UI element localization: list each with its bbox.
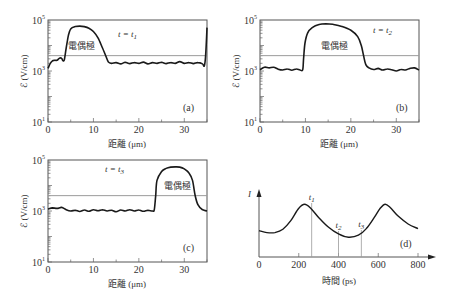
- y-tick-label: 101: [32, 256, 45, 268]
- x-tick-label: 800: [411, 259, 426, 270]
- panel-tag: (d): [400, 238, 412, 250]
- panel-tag: (b): [396, 102, 408, 114]
- dipole-label: 電偶極: [321, 40, 348, 51]
- y-axis-label: ℰ (V/cm): [19, 54, 29, 87]
- panel-b: 105103101 電偶極 t = t2 (b) 0102030 距離 (μm)…: [231, 14, 419, 149]
- time-marker-label: t2: [336, 220, 343, 232]
- time-label: t = t3: [105, 164, 125, 176]
- x-tick-label: 10: [300, 124, 310, 135]
- x-tick-label: 10: [88, 124, 98, 135]
- x-tick-label: 400: [331, 259, 346, 270]
- x-tick-label: 200: [291, 259, 306, 270]
- time-label: t = t2: [373, 25, 393, 37]
- x-tick-label: 0: [258, 124, 263, 135]
- y-tick-label: 101: [32, 116, 45, 128]
- x-tick-label: 20: [134, 124, 144, 135]
- panel-c: 105103101 電偶極 t = t3 (c) 0102030 距離 (μm)…: [19, 154, 207, 289]
- y-axis-label: ℰ (V/cm): [231, 54, 241, 87]
- dipole-label: 電偶極: [164, 180, 191, 191]
- x-tick-labels: 0102030: [46, 124, 190, 135]
- y-tick-label: 103: [32, 205, 45, 217]
- time-markers: t1t2t3: [309, 192, 365, 257]
- y-tick-label: 101: [244, 116, 257, 128]
- x-ticks: 0200400600800: [257, 253, 426, 270]
- panel-d: 0200400600800 t1t2t3 I (d) 時間 (ps): [247, 189, 436, 286]
- x-tick-labels: 0102030: [46, 264, 190, 275]
- x-axis-label: 距離 (μm): [108, 138, 146, 149]
- dipole-label: 電偶極: [68, 40, 95, 51]
- x-tick-label: 10: [88, 264, 98, 275]
- x-tick-labels: 0102030: [258, 124, 402, 135]
- figure-canvas: 105103101 電偶極 t = t1 (a) 0102030 距離 (μm)…: [0, 0, 450, 295]
- y-axis-label: ℰ (V/cm): [19, 194, 29, 227]
- panel-a: 105103101 電偶極 t = t1 (a) 0102030 距離 (μm)…: [19, 14, 207, 149]
- x-tick-label: 0: [257, 259, 262, 270]
- x-tick-label: 30: [179, 124, 189, 135]
- x-tick-label: 0: [46, 264, 51, 275]
- x-tick-label: 0: [46, 124, 51, 135]
- y-tick-label: 105: [244, 14, 257, 26]
- y-axis-arrow-icon: [257, 189, 262, 197]
- x-tick-label: 20: [346, 124, 356, 135]
- time-marker-label: t1: [309, 192, 315, 204]
- panel-tag: (a): [183, 102, 194, 114]
- y-ticks: 105103101: [244, 14, 419, 128]
- x-axis-label: 距離 (μm): [320, 138, 358, 149]
- time-label: t = t1: [118, 29, 137, 41]
- x-tick-label: 20: [134, 264, 144, 275]
- panel-tag: (c): [183, 242, 194, 254]
- x-tick-label: 30: [391, 124, 401, 135]
- y-tick-label: 105: [32, 14, 45, 26]
- x-axis-label: 距離 (μm): [108, 278, 146, 289]
- time-marker-label: t3: [358, 219, 365, 231]
- x-axis-arrow-icon: [428, 255, 436, 260]
- x-axis-label: 時間 (ps): [322, 276, 356, 286]
- y-axis-label: I: [247, 189, 252, 199]
- y-tick-label: 103: [244, 65, 257, 77]
- y-tick-label: 105: [32, 154, 45, 166]
- x-tick-label: 600: [371, 259, 386, 270]
- y-tick-label: 103: [32, 65, 45, 77]
- x-tick-label: 30: [179, 264, 189, 275]
